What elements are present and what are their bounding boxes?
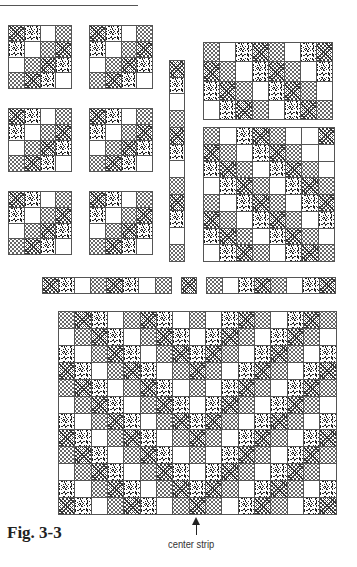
circles-fabric-patch — [288, 414, 303, 430]
dark-crosshatch-fabric-patch — [190, 363, 205, 379]
plain-white-fabric-patch — [157, 498, 172, 514]
dark-crosshatch-fabric-patch — [288, 329, 303, 345]
scattered-strokes-fabric-patch — [122, 73, 137, 88]
circles-fabric-patch — [271, 363, 286, 379]
scattered-strokes-fabric-patch — [41, 73, 56, 88]
circles-fabric-patch — [204, 128, 219, 144]
circles-fabric-patch — [317, 101, 332, 119]
scattered-strokes-fabric-patch — [59, 414, 74, 430]
plain-white-fabric-patch — [56, 239, 71, 254]
circles-fabric-patch — [190, 447, 205, 463]
dark-crosshatch-fabric-patch — [288, 464, 303, 480]
circles-fabric-patch — [173, 430, 188, 446]
circles-fabric-patch — [320, 312, 335, 328]
plain-white-fabric-patch — [122, 192, 137, 207]
scattered-strokes-fabric-patch — [253, 212, 268, 228]
scattered-strokes-fabric-patch — [255, 346, 270, 362]
dark-crosshatch-fabric-patch — [9, 192, 24, 207]
scattered-strokes-fabric-patch — [170, 145, 184, 161]
block-4x4-r3-c2 — [89, 191, 153, 255]
dark-crosshatch-fabric-patch — [137, 208, 152, 223]
scattered-strokes-fabric-patch — [157, 447, 172, 463]
dark-crosshatch-fabric-patch — [319, 195, 334, 211]
dark-crosshatch-fabric-patch — [9, 26, 24, 41]
scattered-strokes-fabric-patch — [190, 414, 205, 430]
scattered-strokes-fabric-patch — [123, 278, 138, 293]
dark-crosshatch-fabric-patch — [141, 447, 156, 463]
circles-fabric-patch — [220, 62, 235, 80]
scattered-strokes-fabric-patch — [239, 278, 254, 293]
scattered-strokes-fabric-patch — [124, 414, 139, 430]
dark-crosshatch-fabric-patch — [41, 141, 56, 156]
circles-fabric-patch — [288, 481, 303, 497]
dark-crosshatch-fabric-patch — [170, 195, 184, 211]
scattered-strokes-fabric-patch — [157, 312, 172, 328]
circles-fabric-patch — [122, 125, 137, 140]
dark-crosshatch-fabric-patch — [90, 192, 105, 207]
circles-fabric-patch — [304, 397, 319, 413]
plain-white-fabric-patch — [41, 192, 56, 207]
scattered-strokes-fabric-patch — [271, 464, 286, 480]
plain-white-fabric-patch — [206, 312, 221, 328]
dark-crosshatch-fabric-patch — [59, 430, 74, 446]
dark-crosshatch-fabric-patch — [92, 464, 107, 480]
circles-fabric-patch — [255, 312, 270, 328]
circles-fabric-patch — [304, 464, 319, 480]
circles-fabric-patch — [220, 145, 235, 161]
scattered-strokes-fabric-patch — [137, 141, 152, 156]
scattered-strokes-fabric-patch — [56, 58, 71, 73]
circles-fabric-patch — [271, 498, 286, 514]
circles-fabric-patch — [75, 329, 90, 345]
plain-white-fabric-patch — [220, 43, 235, 61]
scattered-strokes-fabric-patch — [157, 380, 172, 396]
plain-white-fabric-patch — [108, 380, 123, 396]
plain-white-fabric-patch — [285, 43, 300, 61]
dark-crosshatch-fabric-patch — [301, 101, 316, 119]
scattered-strokes-fabric-patch — [236, 43, 251, 61]
circles-fabric-patch — [237, 229, 252, 245]
circles-fabric-patch — [124, 312, 139, 328]
dark-crosshatch-fabric-patch — [204, 212, 219, 228]
circles-fabric-patch — [222, 346, 237, 362]
dark-crosshatch-fabric-patch — [25, 239, 40, 254]
dark-crosshatch-fabric-patch — [43, 278, 58, 293]
plain-white-fabric-patch — [92, 430, 107, 446]
plain-white-fabric-patch — [286, 195, 301, 211]
dark-crosshatch-fabric-patch — [173, 346, 188, 362]
top-rule — [0, 5, 138, 6]
arrow-stem — [196, 522, 197, 535]
dark-crosshatch-fabric-patch — [304, 312, 319, 328]
scattered-strokes-fabric-patch — [59, 278, 74, 293]
dark-crosshatch-fabric-patch — [253, 43, 268, 61]
circles-fabric-patch — [157, 414, 172, 430]
scattered-strokes-fabric-patch — [173, 397, 188, 413]
scattered-strokes-fabric-patch — [286, 178, 301, 194]
circles-fabric-patch — [206, 430, 221, 446]
dark-crosshatch-fabric-patch — [320, 363, 335, 379]
plain-white-fabric-patch — [124, 329, 139, 345]
dark-crosshatch-fabric-patch — [182, 278, 196, 293]
circles-fabric-patch — [319, 245, 334, 261]
dark-crosshatch-fabric-patch — [124, 363, 139, 379]
circles-fabric-patch — [204, 195, 219, 211]
dark-crosshatch-fabric-patch — [107, 278, 122, 293]
circles-fabric-patch — [106, 58, 121, 73]
circles-fabric-patch — [271, 278, 286, 293]
plain-white-fabric-patch — [239, 346, 254, 362]
circles-fabric-patch — [141, 397, 156, 413]
scattered-strokes-fabric-patch — [170, 78, 184, 94]
plain-white-fabric-patch — [92, 498, 107, 514]
plain-white-fabric-patch — [190, 329, 205, 345]
scattered-strokes-fabric-patch — [253, 62, 268, 80]
dark-crosshatch-fabric-patch — [239, 380, 254, 396]
plain-white-fabric-patch — [204, 178, 219, 194]
plain-white-fabric-patch — [9, 224, 24, 239]
scattered-strokes-fabric-patch — [206, 329, 221, 345]
scattered-strokes-fabric-patch — [141, 430, 156, 446]
scattered-strokes-fabric-patch — [75, 430, 90, 446]
scattered-strokes-fabric-patch — [56, 141, 71, 156]
scattered-strokes-fabric-patch — [239, 363, 254, 379]
dark-crosshatch-fabric-patch — [92, 329, 107, 345]
plain-white-fabric-patch — [56, 156, 71, 171]
circles-fabric-patch — [137, 192, 152, 207]
